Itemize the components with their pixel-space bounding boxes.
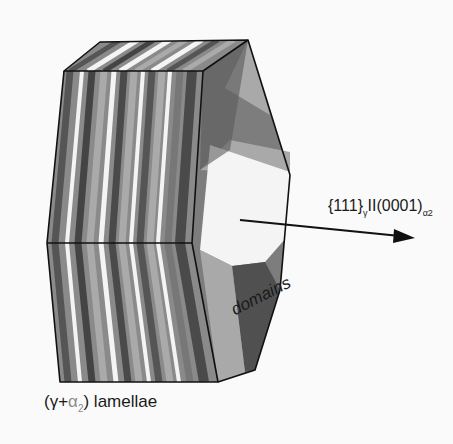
lamellae-label: (γ+α2) lamellae [44,392,157,414]
diagram-canvas: {111}γII(0001)α2 (γ+α2) lamellae domains [0,0,453,444]
orientation-relationship-label: {111}γII(0001)α2 [328,197,433,218]
lamellae-block-drawing [0,0,453,444]
